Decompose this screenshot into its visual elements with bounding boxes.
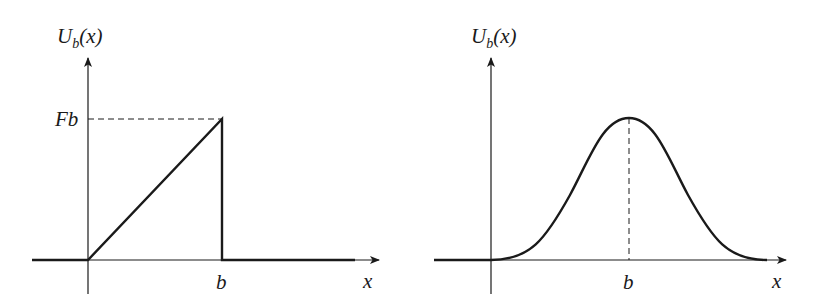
right-x-axis-label: x (771, 269, 782, 293)
right-plot: Ub(x) b x (434, 24, 786, 294)
figure-canvas: Ub(x) Fb b x Ub(x) b x (0, 0, 818, 306)
left-potential-curve (32, 119, 355, 260)
left-plot: Ub(x) Fb b x (32, 24, 379, 294)
left-x-tick-b: b (216, 270, 227, 294)
left-x-axis-label: x (362, 269, 373, 293)
right-x-tick-b: b (623, 270, 634, 294)
right-y-axis-label: Ub(x) (471, 24, 516, 51)
left-y-axis-label: Ub(x) (57, 24, 102, 51)
right-potential-curve (434, 118, 767, 260)
left-y-tick-fb: Fb (54, 107, 78, 131)
